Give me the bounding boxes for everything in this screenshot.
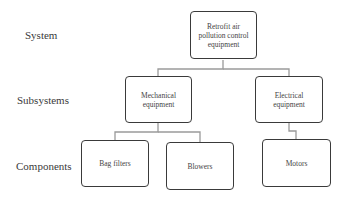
node-label: Motors — [286, 159, 308, 168]
node-blowers: Blowers — [166, 142, 234, 190]
node-label: Retrofit air pollution control equipment — [193, 22, 254, 49]
node-label: Bag filters — [99, 159, 130, 168]
node-bag-filters: Bag filters — [81, 140, 149, 187]
node-motors: Motors — [262, 139, 331, 187]
node-retrofit-air-pollution-control-equipment: Retrofit air pollution control equipment — [190, 11, 257, 59]
node-label: Electrical equipment — [258, 91, 320, 109]
node-label: Mechanical equipment — [128, 91, 189, 109]
level-label-system: System — [25, 29, 57, 41]
node-label: Blowers — [188, 162, 213, 171]
node-electrical-equipment: Electrical equipment — [255, 76, 323, 123]
level-label-subsystems: Subsystems — [17, 94, 69, 106]
node-mechanical-equipment: Mechanical equipment — [125, 76, 192, 123]
level-label-components: Components — [16, 160, 72, 172]
